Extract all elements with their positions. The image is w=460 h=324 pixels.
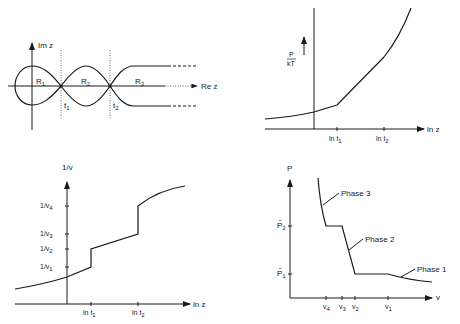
tick-label-v3: 1/v3 (40, 230, 53, 239)
isotherm-curve (318, 178, 432, 282)
tick-ln-t1-label: ln t1 (329, 135, 342, 144)
t2-label: t2 (113, 101, 119, 111)
tick-label-p1: ~P1 (277, 265, 286, 279)
isotherm-y-label: P (287, 164, 292, 173)
complex-plane-panel: Im z Re z R1 R2 R3 t1 t2 (8, 41, 217, 130)
region-r2-label: R2 (81, 77, 91, 87)
inverse-volume-x-label: ln z (193, 300, 205, 309)
t1-label: t1 (64, 101, 70, 111)
p-numerator: P (289, 51, 294, 58)
im-axis-label: Im z (38, 41, 53, 50)
point-t2 (109, 85, 112, 88)
tick-label-v2: v2 (352, 303, 360, 312)
phase3-label: Phase 3 (341, 189, 371, 198)
figure-canvas: Im z Re z R1 R2 R3 t1 t2 ln z P kT ln t1 (0, 0, 460, 324)
tick-label-v4: 1/v4 (40, 202, 53, 211)
isotherm-x-label: v (436, 293, 440, 302)
phase3-leader (323, 193, 339, 205)
tick-ln-t2-label: ln t2 (376, 135, 389, 144)
region-r1-label: R1 (36, 77, 46, 87)
tick-label-p2: ~P2 (277, 217, 286, 231)
phase1-label: Phase 1 (417, 265, 447, 274)
inverse-volume-panel: 1/v ln z 1/v4 1/v3 1/v2 1/v1 ln t1 ln t2 (15, 163, 205, 318)
phase1-leader (401, 269, 415, 277)
point-t1 (60, 85, 63, 88)
phase2-leader (349, 239, 363, 250)
tick-label-v1: v1 (385, 303, 393, 312)
tick-label-v1: 1/v1 (40, 263, 53, 272)
kt-denominator: kT (287, 60, 296, 67)
phase2-label: Phase 2 (365, 235, 395, 244)
tick-ln-t1-label: ln t1 (83, 309, 96, 318)
tick-label-v3: v3 (339, 303, 347, 312)
pressure-panel: ln z P kT ln t1 ln t2 (265, 8, 439, 144)
pressure-x-label: ln z (427, 125, 439, 134)
inverse-volume-y-label: 1/v (62, 163, 73, 172)
region-r3-label: R3 (135, 77, 145, 87)
region-r3-bottom (110, 86, 168, 106)
tick-label-v2: 1/v2 (40, 245, 53, 254)
re-axis-label: Re z (201, 82, 217, 91)
tick-ln-t2-label: ln t2 (132, 309, 145, 318)
isotherm-panel: P v ~P2 ~P1 v4 v3 v2 v1 Phase 3 Phase 2 … (277, 164, 447, 312)
tick-label-v4: v4 (323, 303, 331, 312)
